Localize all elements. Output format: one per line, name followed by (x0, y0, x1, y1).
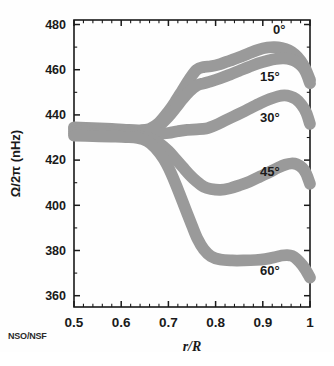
x-tick-label: 1 (306, 315, 314, 330)
y-tick-label: 380 (45, 244, 66, 258)
series-band (74, 136, 310, 278)
y-tick-label: 440 (45, 108, 66, 122)
latitude-label: 0° (273, 22, 285, 37)
latitude-label: 15° (260, 69, 280, 84)
y-tick-label: 360 (45, 289, 66, 303)
latitude-label: 30° (260, 110, 280, 125)
series-line-4 (74, 136, 310, 278)
latitude-label: 60° (260, 263, 280, 278)
solar-rotation-figure: 360380400420440460480 0.50.60.70.80.91 0… (0, 0, 334, 366)
caption-smear-strip (0, 352, 334, 366)
x-axis-tick-labels: 0.50.60.70.80.91 (65, 315, 315, 330)
x-tick-label: 0.7 (159, 315, 178, 330)
x-tick-label: 0.6 (112, 315, 131, 330)
rotation-rate-chart: 360380400420440460480 0.50.60.70.80.91 0… (0, 0, 334, 366)
credit-label: NSO/NSF (8, 331, 47, 341)
y-axis-title: Ω/2π (nHz) (8, 130, 23, 197)
latitude-label: 45° (260, 164, 280, 179)
y-tick-label: 400 (45, 199, 66, 213)
x-tick-label: 0.5 (65, 315, 84, 330)
y-axis-tick-labels: 360380400420440460480 (45, 18, 66, 303)
y-tick-label: 480 (45, 18, 66, 32)
x-tick-label: 0.9 (253, 315, 272, 330)
x-tick-label: 0.8 (206, 315, 225, 330)
y-tick-label: 460 (45, 63, 66, 77)
y-tick-label: 420 (45, 153, 66, 167)
